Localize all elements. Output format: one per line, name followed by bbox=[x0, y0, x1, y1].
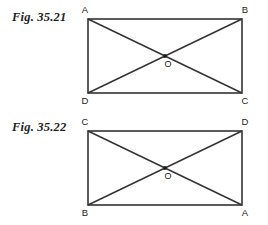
diagram-35-21: A B C D O bbox=[0, 0, 268, 113]
vertex-label-top-right: D bbox=[242, 116, 249, 127]
diagram-35-22: C D A B O bbox=[0, 112, 268, 225]
vertex-label-top-right: B bbox=[242, 4, 248, 15]
figure-35-21: Fig. 35.21 A B C D O bbox=[0, 0, 268, 113]
figure-35-22: Fig. 35.22 C D A B O bbox=[0, 112, 268, 225]
vertex-label-bottom-right: C bbox=[242, 95, 249, 106]
figure-page: Fig. 35.21 A B C D O Fig. 35.22 bbox=[0, 0, 268, 225]
vertex-label-top-left: C bbox=[82, 116, 89, 127]
center-point-label: O bbox=[164, 171, 171, 181]
vertex-label-bottom-left: B bbox=[82, 207, 88, 218]
vertex-label-bottom-left: D bbox=[82, 95, 89, 106]
vertex-label-top-left: A bbox=[82, 4, 89, 15]
center-point-dot bbox=[163, 54, 167, 58]
center-point-label: O bbox=[164, 59, 171, 69]
center-point-dot bbox=[163, 166, 167, 170]
vertex-label-bottom-right: A bbox=[242, 207, 249, 218]
